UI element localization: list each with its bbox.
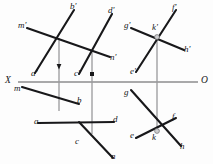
label-e: e — [130, 131, 134, 140]
label-a: a — [34, 117, 39, 126]
label-b: b — [77, 96, 82, 105]
label-m: m — [14, 84, 21, 93]
tick-projector-left — [57, 64, 62, 70]
line-c-prime-d-prime — [79, 14, 112, 74]
label-d: d — [113, 115, 118, 124]
line-m-b — [22, 87, 79, 104]
label-b-prime: b' — [70, 2, 76, 11]
label-g-prime: g' — [124, 21, 130, 30]
line-m-prime-n-prime — [27, 28, 110, 57]
label-c: c — [75, 137, 79, 146]
line-c-n — [79, 122, 113, 158]
label-k-prime: k' — [152, 23, 158, 32]
line-e-prime-f-prime — [136, 10, 176, 72]
projection-figure: X O b' m' a' d' n' c' g' k' f' h' e' m b… — [0, 0, 213, 164]
tick-projector-middle — [90, 72, 94, 76]
axis-label-o: O — [201, 76, 208, 85]
line-a-d — [38, 122, 114, 123]
label-e-prime: e' — [130, 67, 136, 76]
label-c-prime: c' — [74, 69, 80, 78]
label-k: k — [152, 133, 156, 142]
axis-label-x: X — [5, 76, 11, 85]
label-h: h — [180, 142, 185, 151]
label-n-prime: n' — [110, 53, 116, 62]
node-k-prime — [155, 35, 160, 40]
figure-canvas — [0, 0, 213, 164]
label-h-prime: h' — [184, 45, 190, 54]
label-a-prime: a' — [31, 69, 37, 78]
label-m-prime: m' — [18, 21, 26, 30]
label-g: g — [124, 88, 129, 97]
label-n: n — [111, 152, 116, 161]
label-d-prime: d' — [108, 6, 114, 15]
label-f: f — [172, 112, 175, 121]
label-f-prime: f' — [172, 3, 176, 12]
